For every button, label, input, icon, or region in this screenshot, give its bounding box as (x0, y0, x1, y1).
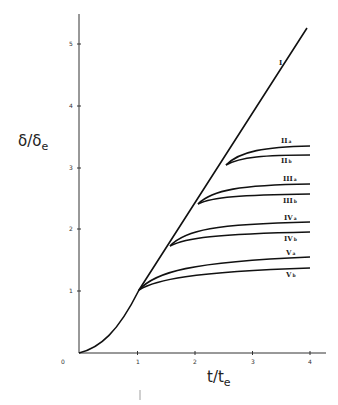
label-IVb: IVb (284, 234, 297, 243)
label-IVa: IVa (284, 213, 297, 222)
x-tick-label-2: 2 (193, 358, 197, 365)
x-tick-label-1: 1 (136, 358, 140, 365)
label-IIb: IIb (281, 156, 292, 165)
label-Vb: Vb (285, 270, 296, 279)
y-axis-title: δ/δe (18, 132, 48, 153)
y-tick-label-4: 4 (69, 102, 73, 109)
chart: 1 2 3 4 5 0 1 2 3 4 I IIa IIb (0, 0, 338, 405)
curve-Vb (139, 268, 310, 290)
curve-Va (139, 257, 310, 290)
curve-labels: I IIa IIb IIIa IIIb IVa IVb Va Vb (279, 58, 297, 279)
label-IIIb: IIIb (283, 196, 297, 205)
x-axis-title: t/te (207, 368, 231, 389)
curves (79, 28, 310, 353)
x-tick-label-3: 3 (251, 358, 255, 365)
label-I: I (279, 58, 282, 67)
y-tick-label-3: 3 (69, 164, 73, 171)
y-tick-label-2: 2 (69, 225, 73, 232)
label-Va: Va (285, 248, 295, 257)
label-IIIa: IIIa (283, 174, 297, 183)
y-tick-label-5: 5 (69, 40, 73, 47)
curve-I (79, 28, 307, 353)
x-tick-label-4: 4 (308, 358, 312, 365)
label-IIa: IIa (281, 136, 292, 145)
origin-label: 0 (61, 358, 65, 365)
y-tick-label-1: 1 (69, 287, 73, 294)
